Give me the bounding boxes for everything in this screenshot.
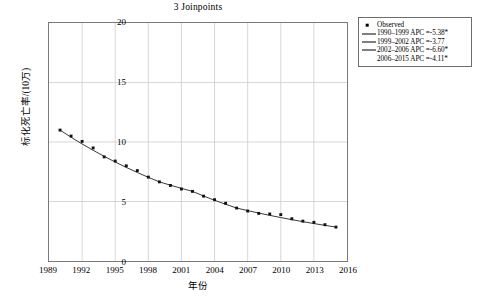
legend-item: 1990–1999 APC =-5.38*: [361, 29, 468, 37]
legend-item: 2002–2006 APC =-6.60*: [361, 46, 468, 54]
legend-line-icon: [361, 55, 377, 63]
x-axis-title: 年份: [48, 278, 348, 292]
legend-item-label: 1999–2002 APC =-3.77: [377, 38, 445, 46]
legend-marker-icon: [361, 21, 377, 29]
x-tick-label: 2016: [328, 265, 368, 275]
legend-line-icon: [361, 30, 377, 38]
legend-item: 2006–2015 APC =-4.11*: [361, 55, 468, 63]
legend-item-label: 1990–1999 APC =-5.38*: [377, 29, 448, 37]
legend-item-label: 2006–2015 APC =-4.11*: [377, 55, 448, 63]
y-tick-label: 10: [86, 138, 126, 147]
chart-title: 3 Joinpoints: [48, 2, 348, 12]
legend-line-icon: [361, 46, 377, 54]
chart-canvas: 3 Joinpoints 05101520 198919921995199820…: [0, 0, 477, 305]
y-axis-title: 标化死亡率/(10万): [18, 37, 32, 177]
legend-item-label: 2002–2006 APC =-6.60*: [377, 46, 448, 54]
legend: Observed1990–1999 APC =-5.38*1999–2002 A…: [358, 17, 472, 67]
legend-line-icon: [361, 38, 377, 46]
legend-item: Observed: [361, 21, 468, 29]
y-tick-label: 5: [86, 198, 126, 207]
y-tick-label: 20: [86, 18, 126, 27]
legend-item: 1999–2002 APC =-3.77: [361, 38, 468, 46]
legend-item-label: Observed: [377, 21, 404, 29]
y-tick-label: 15: [86, 78, 126, 87]
